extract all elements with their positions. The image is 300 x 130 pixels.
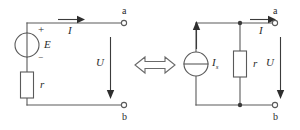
left-voltage-label: U [96, 57, 104, 68]
source-current-arrow-head [193, 21, 200, 30]
left-resistor-label: r [40, 79, 44, 90]
right-terminal-b-label: b [273, 112, 278, 122]
voltage-source-plus-sign: + [38, 24, 44, 35]
equivalence-symbol-group [135, 57, 175, 73]
right-resistor-symbol [234, 51, 247, 77]
right-voltage-label: U [266, 57, 274, 68]
voltage-source-label: E [44, 39, 51, 50]
left-terminal-b-node [121, 102, 126, 107]
left-current-label: I [68, 25, 72, 36]
right-current-label: I [259, 25, 263, 36]
circuit-equivalence-figure: + − E r I U a b Is r I U a b [0, 0, 300, 130]
equivalence-double-arrow-icon [135, 57, 175, 73]
left-terminal-a-node [121, 20, 126, 25]
right-terminal-b-node [272, 102, 277, 107]
left-resistor-symbol [21, 72, 34, 98]
right-top-junction-dot [238, 21, 242, 25]
current-source-label: Is [212, 57, 218, 71]
right-bottom-junction-dot [238, 103, 242, 107]
current-source-label-subscript: s [216, 63, 219, 71]
right-terminal-a-node [272, 20, 277, 25]
left-voltage-arrow-head [107, 90, 114, 99]
left-current-arrow-head [77, 16, 85, 23]
left-terminal-b-label: b [122, 112, 127, 122]
right-terminal-a-label: a [273, 6, 277, 16]
voltage-source-minus-sign: − [38, 53, 43, 62]
left-terminal-a-label: a [122, 6, 126, 16]
right-resistor-label: r [253, 58, 257, 69]
right-voltage-arrow-head [277, 90, 284, 99]
